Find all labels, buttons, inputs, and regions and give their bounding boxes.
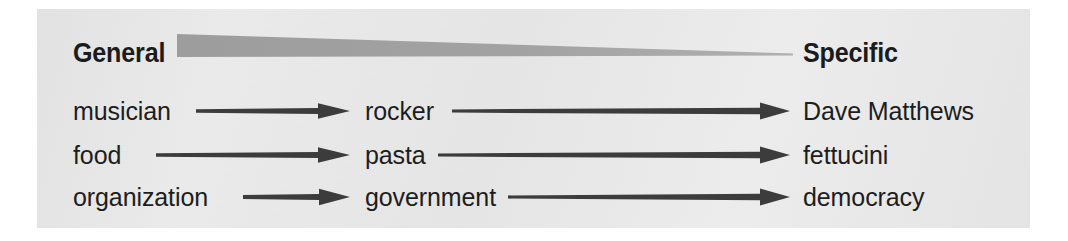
right-arrow-icon xyxy=(452,99,790,123)
term-general: musician xyxy=(73,96,171,126)
tapering-wedge-icon xyxy=(177,33,793,65)
term-middle: rocker xyxy=(365,96,434,126)
term-specific: democracy xyxy=(803,182,924,212)
term-general: food xyxy=(73,140,121,170)
term-specific: Dave Matthews xyxy=(803,96,974,126)
ladder-row: musician rocker Dave Matthews xyxy=(0,94,1068,138)
term-specific: fettucini xyxy=(803,140,888,170)
right-arrow-icon xyxy=(156,143,350,167)
heading-specific: Specific xyxy=(803,38,898,69)
right-arrow-icon xyxy=(508,185,790,209)
right-arrow-icon xyxy=(196,99,350,123)
right-arrow-icon xyxy=(243,185,350,209)
term-middle: government xyxy=(365,182,496,212)
concept-ladder-figure: General Specific musician rocker Dave Ma… xyxy=(0,0,1068,241)
term-general: organization xyxy=(73,182,208,212)
right-arrow-icon xyxy=(438,143,790,167)
term-middle: pasta xyxy=(365,140,426,170)
heading-general: General xyxy=(73,38,165,69)
ladder-row: organization government democracy xyxy=(0,180,1068,224)
ladder-row: food pasta fettucini xyxy=(0,138,1068,182)
